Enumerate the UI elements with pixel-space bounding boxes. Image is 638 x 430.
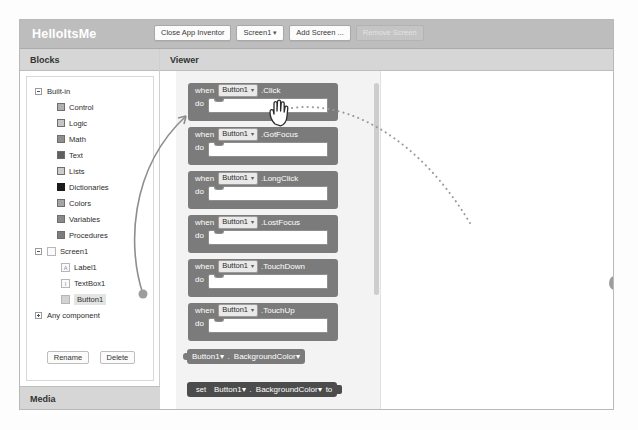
block-do-label: do (195, 143, 204, 152)
tree-item-math[interactable]: Math (27, 131, 153, 147)
tree-item-logic[interactable]: Logic (27, 115, 153, 131)
category-swatch-icon (57, 183, 65, 191)
media-panel-title: Media (20, 386, 160, 410)
collapse-toggle-icon[interactable] (35, 248, 42, 255)
tree-item-colors[interactable]: Colors (27, 195, 153, 211)
event-name: .Click (261, 86, 281, 95)
collapse-toggle-icon[interactable] (35, 88, 42, 95)
tree-label: Any component (47, 311, 100, 320)
tree-label: Screen1 (60, 247, 88, 256)
block-keyword: when (195, 174, 214, 183)
button-component-icon (61, 295, 70, 304)
block-body-slot[interactable] (208, 318, 328, 333)
event-name: .TouchUp (261, 306, 295, 315)
tree-item-procedures[interactable]: Procedures (27, 227, 153, 243)
category-swatch-icon (57, 151, 65, 159)
component-dropdown[interactable]: Button1▾ (218, 172, 258, 185)
flyout-scrollbar[interactable] (374, 83, 379, 295)
block-body-slot[interactable] (208, 274, 328, 289)
app-inventor-window: HelloItsMe Close App Inventor Screen1 Ad… (19, 19, 614, 410)
tree-label: Button1 (74, 294, 106, 305)
block-keyword: when (195, 306, 214, 315)
top-header-bar: HelloItsMe Close App Inventor Screen1 Ad… (20, 20, 613, 49)
separator: . (250, 385, 252, 394)
separator: . (228, 352, 230, 361)
grab-hand-cursor-icon (267, 98, 293, 128)
blocks-panel-title: Blocks (20, 49, 159, 71)
component-dropdown[interactable]: Button1▾ (192, 352, 224, 361)
property-dropdown[interactable]: BackgroundColor▾ (256, 385, 322, 394)
category-swatch-icon (57, 167, 65, 175)
component-dropdown[interactable]: Button1▾ (218, 128, 258, 141)
close-app-inventor-button[interactable]: Close App Inventor (154, 25, 231, 41)
block-when-button1-touchdown[interactable]: when Button1▾ .TouchDown do (188, 259, 338, 297)
tree-label: Colors (69, 199, 91, 208)
block-when-button1-longclick[interactable]: when Button1▾ .LongClick do (188, 171, 338, 209)
blocks-tree-container: Built-in Control Logic Math Text (26, 76, 154, 381)
tree-item-control[interactable]: Control (27, 99, 153, 115)
tree-label: Dictionaries (69, 183, 109, 192)
tree-label: Built-in (47, 87, 70, 96)
block-body-slot[interactable] (208, 230, 328, 245)
block-keyword: when (195, 262, 214, 271)
tree-item-screen1[interactable]: Screen1 (27, 243, 153, 259)
component-dropdown[interactable]: Button1▾ (214, 385, 246, 394)
block-footer (188, 159, 338, 165)
block-when-button1-click[interactable]: when Button1▾ .Click do (188, 83, 338, 121)
block-body-slot[interactable] (208, 142, 328, 157)
block-set-button1-backgroundcolor[interactable]: set Button1▾ . BackgroundColor▾ to (187, 382, 337, 397)
tree-label: Math (69, 135, 86, 144)
delete-button[interactable]: Delete (100, 351, 136, 365)
screen-selector-dropdown[interactable]: Screen1 (236, 25, 284, 41)
property-dropdown[interactable]: BackgroundColor▾ (234, 352, 300, 361)
tree-item-button1[interactable]: Button1 (27, 291, 153, 307)
block-footer (188, 203, 338, 209)
tree-item-dictionaries[interactable]: Dictionaries (27, 179, 153, 195)
component-dropdown[interactable]: Button1▾ (218, 260, 258, 273)
block-keyword: when (195, 130, 214, 139)
block-get-button1-backgroundcolor[interactable]: Button1▾ . BackgroundColor▾ (187, 349, 305, 364)
tree-item-label1[interactable]: A Label1 (27, 259, 153, 275)
add-screen-button[interactable]: Add Screen ... (289, 25, 351, 41)
block-keyword: when (195, 218, 214, 227)
block-do-label: do (195, 187, 204, 196)
component-actions: Rename Delete (27, 346, 154, 365)
drag-anchor-dot (609, 276, 614, 290)
category-swatch-icon (57, 199, 65, 207)
tree-label: Procedures (69, 231, 108, 240)
event-name: .LongClick (261, 174, 298, 183)
block-right-plug (336, 385, 342, 394)
to-label: to (326, 385, 333, 394)
rename-button[interactable]: Rename (47, 351, 89, 365)
tree-item-any-component[interactable]: Any component (27, 307, 153, 323)
screen-icon (47, 247, 56, 256)
viewer-panel-title: Viewer (160, 49, 614, 71)
block-when-button1-touchup[interactable]: when Button1▾ .TouchUp do (188, 303, 338, 341)
expand-toggle-icon[interactable] (35, 312, 42, 319)
component-dropdown[interactable]: Button1▾ (218, 216, 258, 229)
tree-item-lists[interactable]: Lists (27, 163, 153, 179)
category-swatch-icon (57, 231, 65, 239)
tree-label: Lists (69, 167, 85, 176)
block-keyword: when (195, 86, 214, 95)
blocks-sidebar: Blocks Built-in Control Logic Math (20, 49, 160, 410)
textbox-component-icon: I (61, 279, 70, 288)
block-when-button1-lostfocus[interactable]: when Button1▾ .LostFocus do (188, 215, 338, 253)
block-body-slot[interactable] (208, 186, 328, 201)
remove-screen-button: Remove Screen (356, 25, 424, 41)
component-dropdown[interactable]: Button1▾ (218, 84, 258, 97)
tree-item-built-in[interactable]: Built-in (27, 83, 153, 99)
component-dropdown[interactable]: Button1▾ (218, 304, 258, 317)
tree-item-text[interactable]: Text (27, 147, 153, 163)
set-keyword: set (192, 384, 210, 395)
category-swatch-icon (57, 119, 65, 127)
blocks-workspace[interactable]: when Button1▾ .Click do when Button1▾ .G… (160, 71, 614, 410)
tree-item-variables[interactable]: Variables (27, 211, 153, 227)
event-name: .LostFocus (261, 218, 300, 227)
block-do-label: do (195, 99, 204, 108)
tree-label: TextBox1 (74, 279, 105, 288)
tree-item-textbox1[interactable]: I TextBox1 (27, 275, 153, 291)
category-swatch-icon (57, 103, 65, 111)
event-name: .GotFocus (261, 130, 298, 139)
block-when-button1-gotfocus[interactable]: when Button1▾ .GotFocus do (188, 127, 338, 165)
